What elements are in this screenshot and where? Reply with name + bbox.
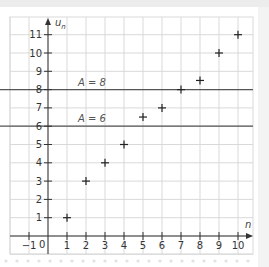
y-tick-label: 10 [29,48,42,59]
origin-label: 0 [39,239,45,250]
x-tick-label: 2 [83,240,89,251]
data-point-plus-icon [120,141,128,149]
x-tick-label: 1 [64,240,70,251]
x-tick-label: 6 [159,240,165,251]
dot-decoration [202,259,205,262]
data-point-plus-icon [63,214,71,222]
scatter-chart: A = 8A = 6 nun0 −11234567891012345678910… [0,0,269,267]
dot-decoration [180,259,183,262]
dot-decoration [191,259,194,262]
bottom-dotted-row [4,259,249,262]
dot-decoration [26,259,29,262]
dot-decoration [103,259,106,262]
dot-decoration [224,259,227,262]
x-axis-label: n [245,219,251,230]
dot-decoration [92,259,95,262]
dot-decoration [246,259,249,262]
dot-decoration [125,259,128,262]
y-tick-label: 7 [36,102,42,113]
x-tick-label: 5 [140,240,146,251]
y-axis-label: un [55,17,66,31]
data-point-plus-icon [234,31,242,39]
data-point-plus-icon [101,159,109,167]
dot-decoration [158,259,161,262]
dot-decoration [70,259,73,262]
x-tick-label: 8 [197,240,203,251]
y-tick-label: 11 [29,29,42,40]
x-axis-arrow-icon [246,233,253,239]
data-point-plus-icon [158,104,166,112]
data-point-plus-icon [196,76,204,84]
y-tick-label: 4 [36,157,42,168]
x-tick-label: 10 [232,240,245,251]
dot-decoration [169,259,172,262]
x-tick-label: 3 [102,240,108,251]
x-tick-label: 9 [216,240,222,251]
dot-decoration [48,259,51,262]
y-tick-label: 6 [36,121,42,132]
dot-decoration [114,259,117,262]
y-tick-label: 3 [36,176,42,187]
y-tick-label: 1 [36,212,42,223]
dot-decoration [147,259,150,262]
data-point-plus-icon [177,86,185,94]
y-tick-label: 5 [36,139,42,150]
data-point-plus-icon [82,177,90,185]
dot-decoration [4,259,7,262]
dot-decoration [37,259,40,262]
dot-decoration [81,259,84,262]
dot-decoration [59,259,62,262]
y-tick-label: 8 [36,84,42,95]
x-tick-label: 7 [178,240,184,251]
reference-line-label: A = 8 [77,77,106,88]
x-tick-label: −1 [22,240,37,251]
dot-decoration [213,259,216,262]
data-point-plus-icon [139,113,147,121]
y-axis-arrow-icon [45,18,51,25]
dot-decoration [136,259,139,262]
dot-decoration [15,259,18,262]
reference-line-label: A = 6 [77,113,106,124]
dot-decoration [235,259,238,262]
data-point-plus-icon [215,49,223,57]
x-tick-label: 4 [121,240,127,251]
y-tick-label: 9 [36,66,42,77]
y-tick-label: 2 [36,194,42,205]
